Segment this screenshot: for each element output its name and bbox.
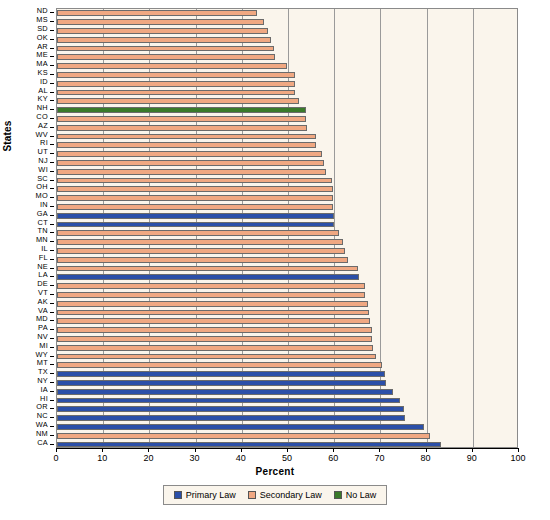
bar-row <box>57 291 517 300</box>
x-tick-label-80: 80 <box>421 453 431 463</box>
bar-ia <box>57 389 393 395</box>
bar-ar <box>57 46 274 52</box>
bar-row <box>57 396 517 405</box>
x-tick-mark-50 <box>287 448 288 452</box>
bar-row <box>57 79 517 88</box>
y-tick-mark <box>50 391 54 392</box>
bar-ri <box>57 142 316 148</box>
bar-row <box>57 141 517 150</box>
bar-row <box>57 282 517 291</box>
bar-row <box>57 273 517 282</box>
bar-mo <box>57 195 333 201</box>
x-tick-label-10: 10 <box>97 453 107 463</box>
bar-row <box>57 27 517 36</box>
y-tick-mark <box>50 364 54 365</box>
x-tick-mark-70 <box>379 448 380 452</box>
bar-row <box>57 53 517 62</box>
y-tick-label-ca: CA <box>37 439 48 448</box>
y-tick-mark <box>50 276 54 277</box>
bar-row <box>57 308 517 317</box>
x-tick-mark-0 <box>56 448 57 452</box>
y-tick-mark <box>50 250 54 251</box>
bar-ne <box>57 266 358 272</box>
y-tick-mark <box>50 144 54 145</box>
legend-label: No Law <box>346 490 377 500</box>
bar-ok <box>57 37 271 43</box>
x-tick-mark-20 <box>148 448 149 452</box>
bar-row <box>57 220 517 229</box>
y-tick-mark <box>50 92 54 93</box>
y-tick-mark <box>50 215 54 216</box>
y-tick-mark <box>50 232 54 233</box>
legend-item-primary-law[interactable]: Primary Law <box>174 490 236 500</box>
bar-row <box>57 255 517 264</box>
bar-ks <box>57 72 295 78</box>
legend-swatch-icon <box>174 491 182 499</box>
y-tick-mark <box>50 259 54 260</box>
x-tick-mark-30 <box>195 448 196 452</box>
x-tick-mark-40 <box>241 448 242 452</box>
x-axis-title: Percent <box>0 466 550 477</box>
bar-il <box>57 248 345 254</box>
bar-va <box>57 310 369 316</box>
bar-row <box>57 343 517 352</box>
bar-row <box>57 159 517 168</box>
x-tick-mark-60 <box>333 448 334 452</box>
bar-row <box>57 44 517 53</box>
bar-row <box>57 379 517 388</box>
y-tick-mark <box>50 426 54 427</box>
bar-al <box>57 90 295 96</box>
bar-sc <box>57 178 332 184</box>
bar-ca <box>57 442 441 448</box>
y-tick-mark <box>50 435 54 436</box>
bar-row <box>57 211 517 220</box>
x-tick-label-20: 20 <box>143 453 153 463</box>
bar-oh <box>57 186 333 192</box>
y-tick-mark <box>50 400 54 401</box>
x-tick-label-50: 50 <box>282 453 292 463</box>
bar-md <box>57 318 370 324</box>
legend-item-secondary-law[interactable]: Secondary Law <box>248 490 322 500</box>
y-tick-mark <box>50 127 54 128</box>
bar-row <box>57 97 517 106</box>
y-tick-mark <box>50 417 54 418</box>
x-tick-mark-90 <box>472 448 473 452</box>
bar-nd <box>57 10 257 16</box>
bar-row <box>57 431 517 440</box>
bar-wa <box>57 424 424 430</box>
x-tick-label-0: 0 <box>53 453 58 463</box>
bar-row <box>57 35 517 44</box>
bar-row <box>57 62 517 71</box>
legend-item-no-law[interactable]: No Law <box>334 490 377 500</box>
y-tick-mark <box>50 171 54 172</box>
bar-row <box>57 9 517 18</box>
bar-pa <box>57 327 372 333</box>
x-tick-label-90: 90 <box>467 453 477 463</box>
seatbelt-use-bar-chart: States NDMSSDOKARMEMAKSIDALKYNHCOAZWVRIU… <box>0 0 550 520</box>
x-tick-label-40: 40 <box>236 453 246 463</box>
x-tick-label-100: 100 <box>510 453 525 463</box>
bar-row <box>57 440 517 448</box>
bar-row <box>57 247 517 256</box>
y-axis-tick-labels: NDMSSDOKARMEMAKSIDALKYNHCOAZWVRIUTNJWISC… <box>0 8 54 448</box>
y-tick-mark <box>50 30 54 31</box>
bar-row <box>57 150 517 159</box>
legend-swatch-icon <box>248 491 256 499</box>
bar-row <box>57 370 517 379</box>
y-tick-mark <box>50 74 54 75</box>
bar-row <box>57 352 517 361</box>
bar-nm <box>57 433 430 439</box>
bar-row <box>57 326 517 335</box>
bar-mt <box>57 362 382 368</box>
y-tick-mark <box>50 21 54 22</box>
x-tick-label-60: 60 <box>328 453 338 463</box>
bar-row <box>57 387 517 396</box>
bar-or <box>57 406 404 412</box>
bar-ut <box>57 151 322 157</box>
bar-ga <box>57 213 334 219</box>
bar-row <box>57 299 517 308</box>
bar-row <box>57 264 517 273</box>
x-tick-mark-10 <box>102 448 103 452</box>
bar-wy <box>57 354 376 360</box>
bar-in <box>57 204 333 210</box>
